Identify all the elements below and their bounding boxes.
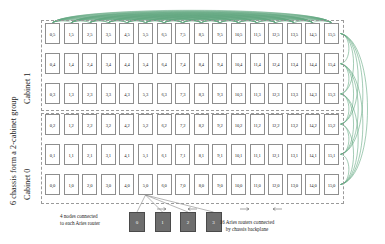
router-cell[interactable]: 4,0: [119, 174, 134, 195]
node-box[interactable]: 1: [155, 212, 171, 232]
router-cell[interactable]: 10,4: [231, 53, 246, 74]
router-cell[interactable]: 5,5: [138, 23, 153, 44]
router-cell[interactable]: 15,4: [324, 53, 339, 74]
router-cell[interactable]: 2,1: [82, 144, 97, 165]
router-cell[interactable]: 2,5: [82, 23, 97, 44]
router-cell[interactable]: 4,2: [119, 114, 134, 135]
router-cell[interactable]: 13,2: [287, 114, 302, 135]
router-cell[interactable]: 11,1: [250, 144, 265, 165]
router-cell[interactable]: 11,5: [250, 23, 265, 44]
router-cell[interactable]: 6,5: [157, 23, 172, 44]
router-cell[interactable]: 15,0: [324, 174, 339, 195]
router-cell[interactable]: 3,4: [101, 53, 116, 74]
cabinet-0-label: Cabinet 0: [23, 169, 32, 200]
router-cell[interactable]: 8,5: [194, 23, 209, 44]
router-cell[interactable]: 0,1: [45, 144, 60, 165]
router-cell[interactable]: 9,0: [212, 174, 227, 195]
dragonfly-topology-diagram: 6 chassis form a 2-cabinet group Cabinet…: [0, 0, 385, 244]
router-cell[interactable]: 6,3: [157, 83, 172, 104]
router-cell[interactable]: 12,1: [268, 144, 283, 165]
router-cell[interactable]: 12,3: [268, 83, 283, 104]
router-cell[interactable]: 5,3: [138, 83, 153, 104]
router-cell[interactable]: 3,5: [101, 23, 116, 44]
router-cell[interactable]: 4,4: [119, 53, 134, 74]
router-cell[interactable]: 9,4: [212, 53, 227, 74]
router-cell[interactable]: 12,2: [268, 114, 283, 135]
router-cell[interactable]: 15,3: [324, 83, 339, 104]
router-cell[interactable]: 0,5: [45, 23, 60, 44]
router-cell[interactable]: 1,5: [64, 23, 79, 44]
router-cell[interactable]: 11,3: [250, 83, 265, 104]
router-cell[interactable]: 0,4: [45, 53, 60, 74]
router-cell[interactable]: 5,0: [138, 174, 153, 195]
router-cell[interactable]: 7,5: [175, 23, 190, 44]
router-cell[interactable]: 13,4: [287, 53, 302, 74]
router-cell[interactable]: 2,3: [82, 83, 97, 104]
router-cell[interactable]: 0,2: [45, 114, 60, 135]
router-cell[interactable]: 1,3: [64, 83, 79, 104]
router-cell[interactable]: 12,0: [268, 174, 283, 195]
router-cell[interactable]: 14,0: [305, 174, 320, 195]
router-cell[interactable]: 6,2: [157, 114, 172, 135]
router-cell[interactable]: 11,4: [250, 53, 265, 74]
router-cell[interactable]: 1,1: [64, 144, 79, 165]
router-cell[interactable]: 10,3: [231, 83, 246, 104]
router-cell[interactable]: 2,4: [82, 53, 97, 74]
router-cell[interactable]: 13,3: [287, 83, 302, 104]
router-cell[interactable]: 15,1: [324, 144, 339, 165]
router-cell[interactable]: 0,3: [45, 83, 60, 104]
router-cell[interactable]: 7,0: [175, 174, 190, 195]
router-cell[interactable]: 7,3: [175, 83, 190, 104]
router-cell[interactable]: 1,0: [64, 174, 79, 195]
router-cell[interactable]: 13,1: [287, 144, 302, 165]
router-cell[interactable]: 8,2: [194, 114, 209, 135]
router-cell[interactable]: 9,3: [212, 83, 227, 104]
router-cell[interactable]: 4,1: [119, 144, 134, 165]
router-cell[interactable]: 10,0: [231, 174, 246, 195]
router-cell[interactable]: 7,1: [175, 144, 190, 165]
router-cell[interactable]: 3,1: [101, 144, 116, 165]
router-cell[interactable]: 9,2: [212, 114, 227, 135]
router-cell[interactable]: 9,5: [212, 23, 227, 44]
router-cell[interactable]: 5,2: [138, 114, 153, 135]
router-cell[interactable]: 6,4: [157, 53, 172, 74]
router-cell[interactable]: 0,0: [45, 174, 60, 195]
router-cell[interactable]: 14,4: [305, 53, 320, 74]
router-cell[interactable]: 15,2: [324, 114, 339, 135]
router-cell[interactable]: 3,3: [101, 83, 116, 104]
router-cell[interactable]: 7,4: [175, 53, 190, 74]
router-cell[interactable]: 4,3: [119, 83, 134, 104]
router-cell[interactable]: 1,4: [64, 53, 79, 74]
router-cell[interactable]: 8,0: [194, 174, 209, 195]
router-cell[interactable]: 13,0: [287, 174, 302, 195]
router-cell[interactable]: 15,5: [324, 23, 339, 44]
router-cell[interactable]: 2,0: [82, 174, 97, 195]
router-cell[interactable]: 4,5: [119, 23, 134, 44]
router-cell[interactable]: 5,1: [138, 144, 153, 165]
router-cell[interactable]: 8,4: [194, 53, 209, 74]
router-cell[interactable]: 8,3: [194, 83, 209, 104]
router-cell[interactable]: 11,0: [250, 174, 265, 195]
router-cell[interactable]: 9,1: [212, 144, 227, 165]
router-cell[interactable]: 10,5: [231, 23, 246, 44]
router-cell[interactable]: 14,3: [305, 83, 320, 104]
router-cell[interactable]: 14,5: [305, 23, 320, 44]
router-cell[interactable]: 3,0: [101, 174, 116, 195]
router-cell[interactable]: 12,4: [268, 53, 283, 74]
router-cell[interactable]: 13,5: [287, 23, 302, 44]
router-cell[interactable]: 10,1: [231, 144, 246, 165]
router-cell[interactable]: 7,2: [175, 114, 190, 135]
router-cell[interactable]: 14,1: [305, 144, 320, 165]
router-cell[interactable]: 14,2: [305, 114, 320, 135]
router-cell[interactable]: 1,2: [64, 114, 79, 135]
router-cell[interactable]: 10,2: [231, 114, 246, 135]
router-cell[interactable]: 5,4: [138, 53, 153, 74]
router-cell[interactable]: 3,2: [101, 114, 116, 135]
router-cell[interactable]: 6,0: [157, 174, 172, 195]
router-cell[interactable]: 8,1: [194, 144, 209, 165]
node-box[interactable]: 0: [129, 212, 145, 232]
router-cell[interactable]: 6,1: [157, 144, 172, 165]
router-cell[interactable]: 11,2: [250, 114, 265, 135]
router-cell[interactable]: 12,5: [268, 23, 283, 44]
router-cell[interactable]: 2,2: [82, 114, 97, 135]
